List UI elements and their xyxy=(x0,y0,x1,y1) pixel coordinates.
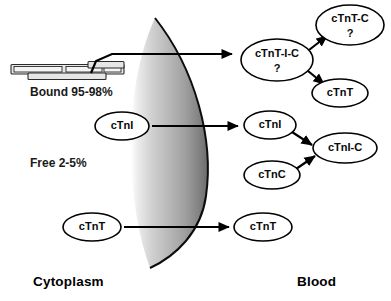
node-blood-ctnt-top[interactable]: cTnT xyxy=(312,79,368,107)
myofilament-structure xyxy=(11,62,124,80)
figure-canvas: cTnI cTnT cTnT-I-C ? cTnT-C ? cTnT xyxy=(0,0,391,301)
arrow-ctni-to-ctni-c xyxy=(292,132,312,145)
node-cyt-ctnt[interactable]: cTnT xyxy=(63,213,121,241)
node-blood-ctnt-c[interactable]: cTnT-C ? xyxy=(316,5,384,45)
oval-shape xyxy=(241,39,313,81)
cell-membrane xyxy=(131,18,208,268)
node-blood-ctnt-bottom[interactable]: cTnT xyxy=(234,213,292,241)
membrane-body xyxy=(131,18,208,268)
node-label: cTnT xyxy=(79,220,106,232)
filament-overlap-bar xyxy=(28,73,106,80)
region-label-cytoplasm: Cytoplasm xyxy=(33,274,104,289)
node-blood-ctni[interactable]: cTnI xyxy=(244,111,296,139)
node-label: cTnT-I-C xyxy=(255,47,299,59)
arrow-ctnc-to-ctni-c xyxy=(296,156,315,169)
node-label: cTnT xyxy=(327,86,354,98)
node-label: cTnT-C xyxy=(331,12,368,24)
node-cyt-ctni[interactable]: cTnI xyxy=(95,112,149,140)
bound-fraction-label: Bound 95-98% xyxy=(30,85,113,99)
troponin-release-diagram: cTnI cTnT cTnT-I-C ? cTnT-C ? cTnT xyxy=(0,0,391,301)
free-fraction-label: Free 2-5% xyxy=(30,156,87,170)
node-uncertainty-mark: ? xyxy=(274,62,281,74)
node-blood-ctnc[interactable]: cTnC xyxy=(244,161,300,189)
region-label-blood: Blood xyxy=(297,274,336,289)
blood-nodes: cTnT-I-C ? cTnT-C ? cTnT cTnI cTnI-C xyxy=(234,5,384,241)
node-blood-ctni-c[interactable]: cTnI-C xyxy=(313,133,377,163)
filament-segment-1 xyxy=(14,67,62,73)
node-label: cTnC xyxy=(258,168,286,180)
node-label: cTnI xyxy=(259,118,282,130)
node-label: cTnI-C xyxy=(328,141,362,153)
node-label: cTnI xyxy=(111,119,134,131)
node-blood-ctnt-i-c[interactable]: cTnT-I-C ? xyxy=(241,39,313,81)
node-label: cTnT xyxy=(250,220,277,232)
node-uncertainty-mark: ? xyxy=(347,27,354,39)
